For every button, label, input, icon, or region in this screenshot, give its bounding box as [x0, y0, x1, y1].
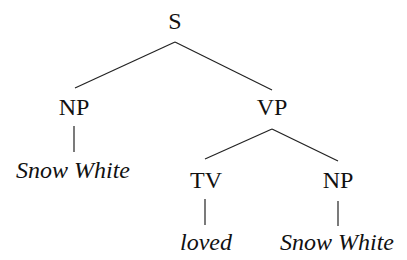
edge-vp-np [272, 129, 338, 161]
edge-vp-tv [205, 129, 272, 159]
node-tv: TV [190, 167, 223, 193]
node-np-subject: NP [59, 94, 90, 120]
node-vp: VP [257, 94, 288, 120]
leaf-loved: loved [180, 229, 233, 255]
syntax-tree: S NP VP Snow White TV NP loved Snow Whit… [0, 0, 407, 260]
node-s: S [168, 8, 181, 34]
edge-s-np [75, 42, 175, 88]
edge-s-vp [175, 42, 272, 90]
leaf-snow-white-subject: Snow White [16, 157, 130, 183]
node-np-object: NP [323, 167, 354, 193]
leaf-snow-white-object: Snow White [280, 229, 394, 255]
